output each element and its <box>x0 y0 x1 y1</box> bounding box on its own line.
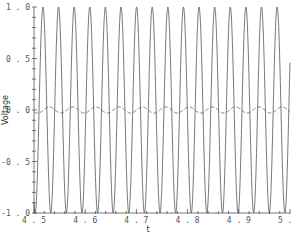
x-tick-label: 4 . 8 <box>176 216 200 225</box>
x-tick-label: 5 . 0 <box>278 216 297 225</box>
plot-lines <box>34 7 290 213</box>
x-tick-label: 4 . 5 <box>22 216 46 225</box>
axes <box>32 7 290 214</box>
axis-labels: 1 . 00 . 50 . 0-0 . 5-1 . 04 . 54 . 64 .… <box>1 3 297 225</box>
y-axis-title: Voltage <box>1 95 10 125</box>
series-response <box>34 107 290 113</box>
x-tick-label: 4 . 7 <box>124 216 148 225</box>
y-tick-label: -0 . 5 <box>1 158 30 167</box>
series-signal <box>34 7 290 213</box>
x-tick-label: 4 . 9 <box>227 216 251 225</box>
x-tick-label: 4 . 6 <box>73 216 97 225</box>
x-axis-title: t <box>146 225 149 234</box>
y-tick-label: 0 . 5 <box>6 55 30 64</box>
y-tick-label: 1 . 0 <box>6 3 30 12</box>
line-chart: 1 . 00 . 50 . 0-0 . 5-1 . 04 . 54 . 64 .… <box>0 0 297 235</box>
